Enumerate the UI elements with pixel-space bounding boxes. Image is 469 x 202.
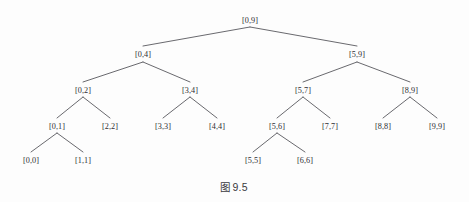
tree-node-5-7: [5,7] (295, 86, 311, 95)
tree-node-5-9: [5,9] (349, 50, 365, 59)
tree-node-3-3: [3,3] (155, 122, 171, 131)
tree-node-8-9: [8,9] (402, 86, 418, 95)
tree-edge (83, 62, 143, 82)
tree-node-0-4: [0,4] (135, 50, 151, 59)
tree-edges-layer (0, 0, 469, 202)
tree-edge (303, 97, 330, 118)
tree-edge (143, 27, 250, 46)
tree-node-0-9: [0,9] (242, 16, 258, 25)
tree-node-9-9: [9,9] (429, 122, 445, 131)
tree-edge (31, 133, 57, 152)
tree-edge (143, 62, 190, 82)
figure-caption: 图9.5 (220, 179, 248, 194)
tree-edge (190, 97, 217, 118)
tree-edge (383, 97, 410, 118)
tree-node-2-2: [2,2] (102, 122, 118, 131)
tree-edge (410, 97, 437, 118)
tree-edge (277, 97, 303, 118)
segment-tree-figure: [0,9][0,4][5,9][0,2][3,4][5,7][8,9][0,1]… (0, 0, 469, 202)
tree-edge (57, 97, 83, 118)
tree-node-5-6: [5,6] (269, 122, 285, 131)
tree-node-0-2: [0,2] (75, 86, 91, 95)
tree-node-5-5: [5,5] (245, 156, 261, 165)
figure-caption-prefix: 图 (220, 181, 230, 193)
tree-edge (250, 27, 357, 46)
tree-edge (357, 62, 410, 82)
tree-edge (253, 133, 277, 152)
figure-caption-number: 9.5 (232, 181, 248, 193)
tree-edge (303, 62, 357, 82)
tree-node-0-0: [0,0] (23, 156, 39, 165)
tree-edge (163, 97, 190, 118)
tree-node-0-1: [0,1] (49, 122, 65, 131)
tree-edge (83, 97, 110, 118)
tree-edge (57, 133, 83, 152)
tree-edge (277, 133, 305, 152)
tree-node-4-4: [4,4] (209, 122, 225, 131)
tree-node-7-7: [7,7] (322, 122, 338, 131)
tree-node-3-4: [3,4] (182, 86, 198, 95)
tree-node-6-6: [6,6] (297, 156, 313, 165)
tree-node-1-1: [1,1] (75, 156, 91, 165)
tree-node-8-8: [8,8] (375, 122, 391, 131)
edge-group (31, 27, 437, 152)
